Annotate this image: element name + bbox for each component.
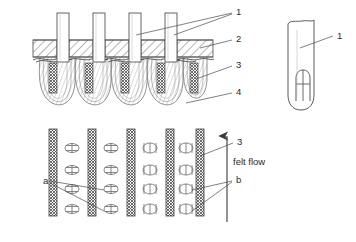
tuft-symbol xyxy=(104,204,118,214)
detail-callout-label-1: 1 xyxy=(337,31,342,40)
tuft-symbol xyxy=(104,143,118,153)
needle xyxy=(57,13,69,62)
felt-layers-group xyxy=(49,129,233,222)
needle xyxy=(165,13,177,62)
tuft-symbol xyxy=(179,165,193,175)
technical-diagram-svg xyxy=(0,0,356,242)
needle xyxy=(129,13,141,62)
tuft-symbol xyxy=(143,143,157,153)
callout-label-a: a xyxy=(43,176,48,185)
web-column xyxy=(157,63,165,93)
callout-label-1: 1 xyxy=(236,7,241,16)
leader-lower-3 xyxy=(200,143,233,156)
tuft-symbol xyxy=(65,143,79,153)
figure-canvas: 1 2 3 4 1 a b 3 felt flow xyxy=(0,0,356,242)
felt-flow-label: felt flow xyxy=(233,157,265,166)
needle-detail-group xyxy=(288,20,333,110)
tuft-symbol xyxy=(104,165,118,175)
lower-callout-label-3: 3 xyxy=(237,137,242,146)
felt-column xyxy=(49,129,57,216)
tuft-symbol xyxy=(179,184,193,194)
callout-label-4: 4 xyxy=(236,87,241,96)
web-column xyxy=(190,63,198,93)
web-column xyxy=(85,63,93,93)
needle-loom-group xyxy=(33,13,232,105)
felt-column xyxy=(127,129,135,216)
tuft-symbol xyxy=(65,204,79,214)
lower-leader-lines xyxy=(50,143,233,211)
callout-label-3: 3 xyxy=(236,60,241,69)
tuft-symbol xyxy=(143,204,157,214)
tuft-symbol xyxy=(104,184,118,194)
tuft-symbol xyxy=(65,165,79,175)
callout-label-b: b xyxy=(236,175,241,184)
needle xyxy=(93,13,105,62)
tuft-symbol xyxy=(179,143,193,153)
tuft-symbol xyxy=(179,204,193,214)
web-column xyxy=(49,63,57,93)
tuft-symbol xyxy=(143,165,157,175)
callout-label-2: 2 xyxy=(236,34,241,43)
web-column xyxy=(121,63,129,93)
tuft-symbol xyxy=(143,184,157,194)
felt-column xyxy=(166,129,174,216)
